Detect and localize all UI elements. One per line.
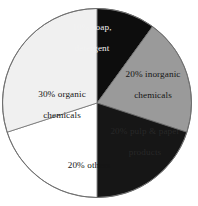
pie-chart-figure: 10% soap, detergent 20% inorganic chemic… bbox=[0, 0, 198, 206]
pie-slices bbox=[3, 9, 192, 198]
pie-chart-svg bbox=[0, 0, 198, 206]
